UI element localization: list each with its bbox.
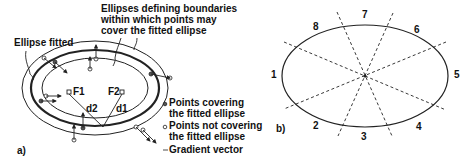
boundaries-title-line-2: within which points may bbox=[101, 14, 237, 25]
focus-2-label: F2 bbox=[108, 86, 120, 97]
gradient-vectors bbox=[41, 45, 170, 143]
sector-1-label: 1 bbox=[271, 69, 277, 80]
panel-b-label: b) bbox=[276, 123, 285, 134]
sector-2-label: 2 bbox=[313, 120, 319, 131]
covering-points bbox=[39, 60, 153, 130]
panel-a-ellipses bbox=[22, 41, 168, 135]
panel-a-label: a) bbox=[17, 145, 26, 156]
sector-dividers bbox=[284, 12, 446, 136]
legend-covering-line-1: Points covering bbox=[169, 97, 245, 108]
legend-covering: Points covering the fitted ellipse bbox=[169, 97, 245, 119]
legend-gradient: Gradient vector bbox=[169, 144, 243, 155]
panel-b bbox=[282, 12, 448, 136]
legend-not-covering-line-1: Points not covering bbox=[169, 120, 262, 131]
boundaries-title-line-3: cover the fitted ellipse bbox=[101, 25, 237, 36]
legend-markers bbox=[163, 102, 168, 150]
distance-2-label: d2 bbox=[86, 103, 98, 114]
legend-not-covering: Points not covering the fitted ellipse bbox=[169, 120, 262, 142]
boundaries-title: Ellipses defining boundaries within whic… bbox=[101, 3, 237, 36]
non-covering-points bbox=[42, 56, 172, 142]
focus-2-marker bbox=[120, 90, 124, 94]
distance-1-label: d1 bbox=[116, 103, 128, 114]
ellipse-fitted-label: Ellipse fitted bbox=[14, 37, 73, 48]
sector-3-label: 3 bbox=[361, 131, 367, 142]
center-point bbox=[363, 74, 366, 77]
legend-not-covering-line-2: the fitted ellipse bbox=[169, 131, 262, 142]
sector-8-label: 8 bbox=[313, 21, 319, 32]
outer-boundary-ellipse bbox=[22, 41, 168, 135]
sector-5-label: 5 bbox=[454, 69, 460, 80]
boundaries-title-line-1: Ellipses defining boundaries bbox=[101, 3, 237, 14]
focus-1-marker bbox=[67, 90, 71, 94]
sector-6-label: 6 bbox=[414, 24, 420, 35]
legend-covering-line-2: the fitted ellipse bbox=[169, 108, 245, 119]
sector-4-label: 4 bbox=[416, 121, 422, 132]
sector-7-label: 7 bbox=[362, 9, 368, 20]
fitted-ellipse bbox=[31, 50, 159, 126]
focus-1-label: F1 bbox=[73, 86, 85, 97]
